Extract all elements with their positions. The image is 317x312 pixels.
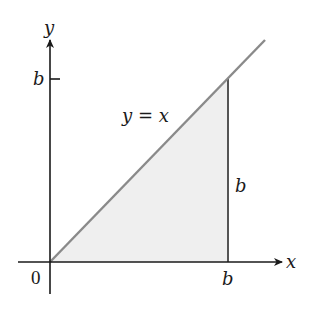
x-tick-label-b: b <box>222 268 234 289</box>
y-axis-label: y <box>43 17 55 38</box>
y-tick-label-b: b <box>33 68 45 89</box>
side-length-label-b: b <box>235 175 247 196</box>
line-equation-label: y = x <box>121 105 169 126</box>
diagram-canvas: y x 0 b b b y = x <box>0 0 317 312</box>
origin-label: 0 <box>31 267 41 288</box>
x-axis-label: x <box>286 251 296 272</box>
